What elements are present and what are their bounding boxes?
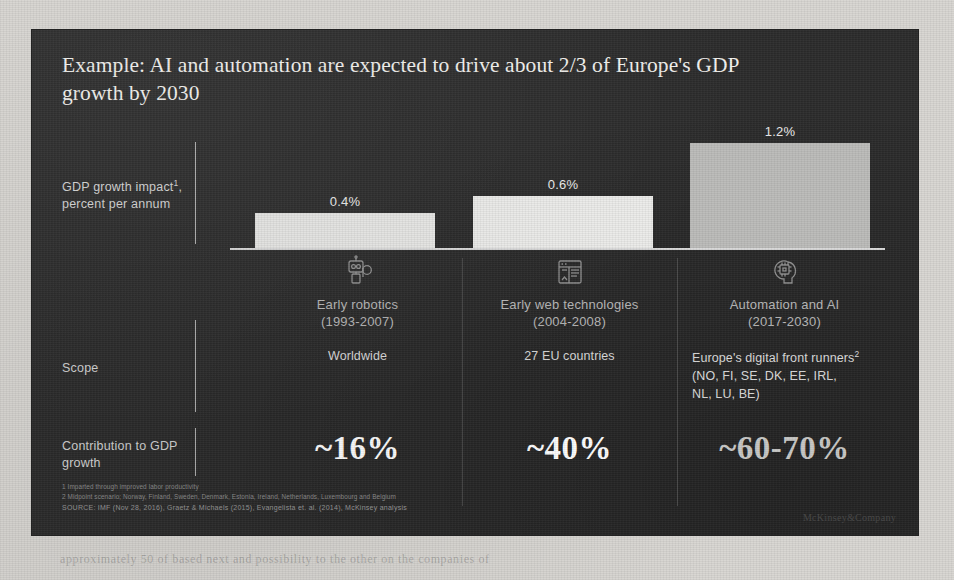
web-browser-icon (462, 252, 677, 292)
row-label-contribution: Contribution to GDP growth (62, 438, 190, 473)
mckinsey-logo: McKinsey&Company (803, 512, 896, 523)
contribution-value-2: ~60-70% (677, 430, 892, 467)
scope-cell-2: Europe's digital front runners2(NO, FI, … (692, 348, 892, 403)
bar-column-early-robotics: 0.4% (255, 213, 435, 248)
category-early-web: Early web technologies (2004-2008) (462, 252, 677, 331)
category-automation-ai: Automation and AI (2017-2030) (677, 252, 892, 331)
category-period-2: (2017-2030) (748, 314, 821, 329)
row-divider-contribution (195, 428, 196, 476)
bar-column-automation-ai: 1.2% (690, 143, 870, 248)
row-label-gdp-growth: GDP growth impact1, percent per annum (62, 178, 190, 214)
scope-cell-1: 27 EU countries (462, 348, 677, 366)
category-name-1: Early web technologies (500, 297, 638, 312)
bar-value-label-1: 0.6% (473, 177, 653, 192)
category-label-2: Automation and AI (2017-2030) (677, 296, 892, 331)
source-line: SOURCE: IMF (Nov 28, 2016), Graetz & Mic… (62, 504, 762, 511)
category-early-robotics: Early robotics (1993-2007) (250, 252, 465, 331)
bar-value-label-2: 1.2% (690, 124, 870, 139)
contribution-value-0: ~16% (250, 430, 465, 467)
category-period-1: (2004-2008) (533, 314, 606, 329)
footnotes: 1 Imparted through improved labor produc… (62, 482, 762, 503)
bar-chart: 0.4% 0.6% 1.2% (195, 100, 885, 250)
presentation-slide: Example: AI and automation are expected … (32, 30, 918, 535)
bar-automation-and-ai (690, 143, 870, 248)
category-name-0: Early robotics (317, 297, 399, 312)
category-name-2: Automation and AI (730, 297, 840, 312)
category-period-0: (1993-2007) (321, 314, 394, 329)
bar-column-early-web: 0.6% (473, 196, 653, 248)
row-divider-scope (195, 320, 196, 412)
robot-icon (250, 252, 465, 292)
bar-early-robotics (255, 213, 435, 248)
category-label-1: Early web technologies (2004-2008) (462, 296, 677, 331)
scope-cell-0: Worldwide (250, 348, 465, 366)
page-ghost-text-bottom: approximately 50 of based next and possi… (60, 552, 914, 567)
footnote-2: 2 Midpoint scenario; Norway, Finland, Sw… (62, 492, 762, 502)
bar-early-web-technologies (473, 196, 653, 248)
bar-value-label-0: 0.4% (255, 194, 435, 209)
chart-baseline-axis (230, 248, 885, 250)
contribution-value-1: ~40% (462, 430, 677, 467)
ai-brain-chip-icon (677, 252, 892, 292)
category-label-0: Early robotics (1993-2007) (250, 296, 465, 331)
footnote-1: 1 Imparted through improved labor produc… (62, 482, 762, 492)
row-label-scope: Scope (62, 360, 190, 377)
